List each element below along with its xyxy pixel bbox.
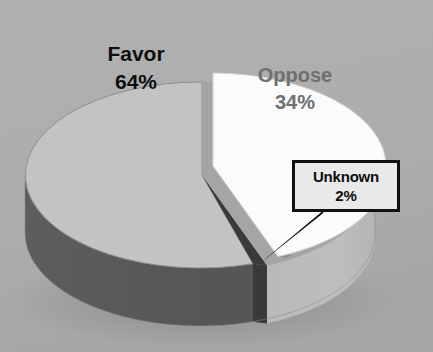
- slice-label-favor-percent: 64%: [78, 70, 194, 94]
- callout-box-unknown: Unknown 2%: [292, 160, 400, 212]
- slice-label-favor-name: Favor: [107, 42, 164, 65]
- chart-canvas: Favor 64% Oppose 34% Unknown 2%: [0, 0, 433, 352]
- slice-label-favor: Favor 64%: [78, 42, 194, 93]
- slice-label-oppose-percent: 34%: [236, 91, 354, 113]
- slice-label-unknown-name: Unknown: [313, 168, 379, 185]
- slice-label-unknown-percent: 2%: [335, 187, 357, 204]
- slice-label-oppose-name: Oppose: [258, 64, 332, 86]
- slice-side-unknown: [253, 264, 267, 324]
- slice-label-oppose: Oppose 34%: [236, 64, 354, 114]
